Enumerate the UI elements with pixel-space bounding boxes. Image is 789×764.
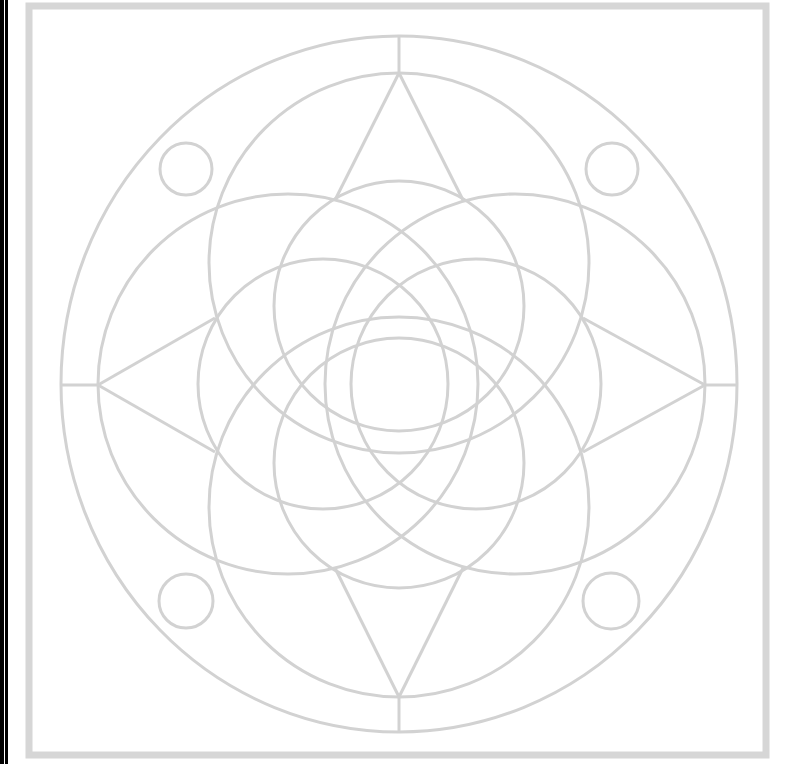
small-circle-bottom-right [583,573,639,629]
large-circle-right [325,194,705,574]
large-circle-bottom [209,317,589,697]
medium-circle-left [198,259,448,509]
mandala-drawing [0,0,789,764]
medium-circle-right [351,259,601,509]
small-circle-bottom-left [159,574,213,628]
large-circle-top [209,73,589,453]
outer-ellipse [61,36,737,732]
medium-circle-top [274,181,524,431]
medium-circle-bottom [274,338,524,588]
small-circle-top-left [160,143,212,195]
small-circle-top-right [586,143,638,195]
outer-frame [29,6,766,755]
